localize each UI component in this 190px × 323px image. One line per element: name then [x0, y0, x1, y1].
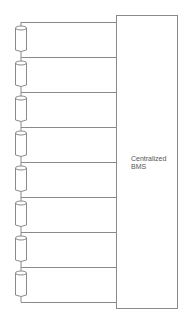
battery-cell-icon [16, 238, 27, 262]
battery-cell-icon [16, 133, 27, 157]
battery-cell-icon [16, 168, 27, 192]
bms-label: Centralized BMS [131, 155, 166, 171]
bms-label-line2: BMS [131, 163, 166, 171]
battery-cell-icon [16, 273, 27, 297]
battery-cell-icon [16, 63, 27, 87]
battery-cell-icon [16, 98, 27, 122]
bms-label-line1: Centralized [131, 155, 166, 163]
battery-cell-icon [16, 28, 27, 52]
battery-cell-icon [16, 203, 27, 227]
